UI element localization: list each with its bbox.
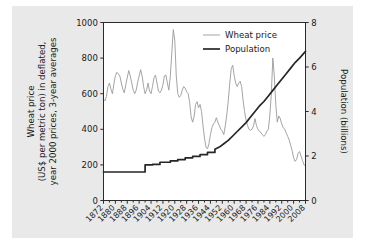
y2-tick-label: 2 xyxy=(311,151,316,161)
x-axis-ticks: 1872188018881896190419121920192819361944… xyxy=(84,201,307,225)
y-tick-label: 400 xyxy=(82,124,98,134)
y-tick-label: 800 xyxy=(82,53,98,63)
y2-tick-label: 0 xyxy=(311,196,316,206)
y2-tick-label: 4 xyxy=(311,107,316,117)
y-axis-title-line: year 2000 prices, 3-year averages xyxy=(48,37,58,185)
legend-label-wheat-price: Wheat price xyxy=(225,30,277,40)
wheat-price-population-chart: 02004006008001000 02468 1872188018881896… xyxy=(0,0,365,249)
y-axis-right-title: Population (billions) xyxy=(339,69,349,154)
y-tick-label: 600 xyxy=(82,89,98,99)
y-axis-title-line: Wheat price xyxy=(26,86,36,138)
figure-container: 02004006008001000 02468 1872188018881896… xyxy=(0,0,365,249)
legend-label-population: Population xyxy=(225,44,270,54)
y-axis-left-title: Wheat price(US$ per metric ton) in defla… xyxy=(26,37,58,185)
y2-tick-label: 6 xyxy=(311,62,316,72)
y-tick-label: 200 xyxy=(82,160,98,170)
y-axis-left-ticks: 02004006008001000 xyxy=(76,18,103,206)
y2-tick-label: 8 xyxy=(311,18,316,28)
y-axis-title-line: (US$ per metric ton) in deflated, xyxy=(37,42,47,182)
y-tick-label: 1000 xyxy=(76,18,98,28)
y2-axis-title: Population (billions) xyxy=(339,69,349,154)
y-axis-right-ticks: 02468 xyxy=(306,18,317,206)
